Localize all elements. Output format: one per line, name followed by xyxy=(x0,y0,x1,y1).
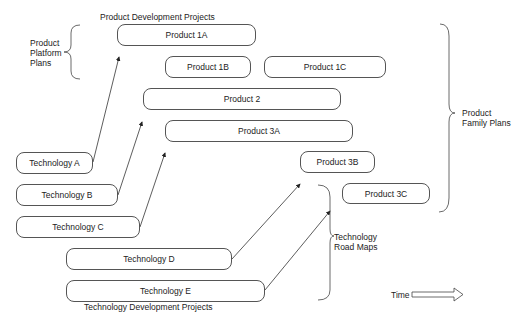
time-label: Time xyxy=(391,290,410,300)
family-brace xyxy=(439,24,455,212)
family-plans-label: Product Family Plans xyxy=(462,108,511,128)
arrow-tech-c-to-product-3a xyxy=(140,153,165,227)
product-dev-projects-title: Product Development Projects xyxy=(100,12,215,22)
roadmaps-label: Technology Road Maps xyxy=(334,232,377,252)
product-3b-box: Product 3B xyxy=(300,151,375,173)
tech-dev-projects-title: Technology Development Projects xyxy=(84,302,213,312)
product-1b-box: Product 1B xyxy=(165,56,251,78)
family-label-line1: Product xyxy=(462,108,511,118)
arrow-tech-b-to-product-2 xyxy=(118,122,142,195)
platform-label-line3: Plans xyxy=(30,58,62,68)
platform-label-line2: Platform xyxy=(30,48,62,58)
technology-c-box: Technology C xyxy=(16,216,140,238)
roadmaps-label-line1: Technology xyxy=(334,232,377,242)
platform-brace xyxy=(64,25,80,79)
technology-a-box: Technology A xyxy=(16,152,93,174)
roadmaps-label-line2: Road Maps xyxy=(334,242,377,252)
platform-label-line1: Product xyxy=(30,38,62,48)
product-3c-box: Product 3C xyxy=(342,183,430,204)
product-1c-box: Product 1C xyxy=(264,56,386,78)
product-3a-box: Product 3A xyxy=(165,120,353,142)
arrow-tech-a-to-product-1a xyxy=(93,57,119,162)
platform-plans-label: Product Platform Plans xyxy=(30,38,62,68)
product-2-box: Product 2 xyxy=(143,88,341,110)
technology-d-box: Technology D xyxy=(66,248,232,270)
roadmaps-brace xyxy=(318,185,334,300)
time-arrow-icon xyxy=(412,288,463,301)
arrow-tech-e-to-product-3c xyxy=(265,211,330,290)
arrow-tech-d-to-product-3b xyxy=(232,184,300,259)
technology-e-box: Technology E xyxy=(66,280,265,302)
family-label-line2: Family Plans xyxy=(462,118,511,128)
technology-b-box: Technology B xyxy=(16,184,118,206)
product-1a-box: Product 1A xyxy=(117,24,256,46)
